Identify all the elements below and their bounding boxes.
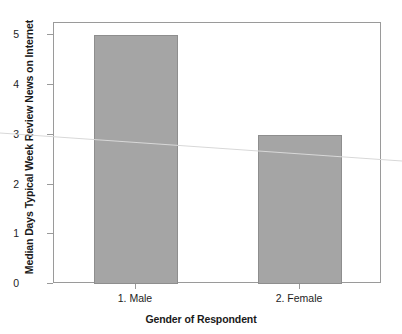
y-tick-mark bbox=[47, 283, 53, 284]
y-axis-title: Median Days Typical Week Review News on … bbox=[21, 12, 37, 282]
x-tick-label: 1. Male bbox=[75, 292, 195, 304]
bar-chart: Median Days Typical Week Review News on … bbox=[0, 0, 402, 334]
bar bbox=[94, 35, 178, 284]
y-tick-label: 0 bbox=[0, 278, 19, 288]
y-tick-label: 3 bbox=[0, 129, 19, 139]
x-axis-title: Gender of Respondent bbox=[0, 313, 402, 326]
y-tick-label: 4 bbox=[0, 79, 19, 89]
bar bbox=[258, 135, 342, 284]
y-tick-label: 2 bbox=[0, 179, 19, 189]
x-tick-mark bbox=[299, 284, 300, 289]
plot-area bbox=[53, 22, 381, 283]
x-tick-label: 2. Female bbox=[239, 292, 359, 304]
y-tick-label: 1 bbox=[0, 228, 19, 238]
x-tick-mark bbox=[135, 284, 136, 289]
y-tick-label: 5 bbox=[0, 29, 19, 39]
